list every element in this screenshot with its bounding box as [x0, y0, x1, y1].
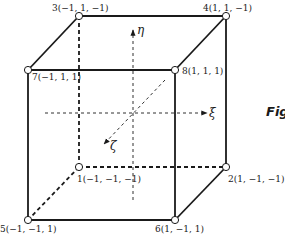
node-label-6: 6(1, −1, 1)	[155, 224, 204, 234]
zeta-axis	[104, 80, 165, 144]
node-5	[24, 216, 31, 223]
edge-1-5	[28, 167, 79, 220]
node-label-2: 2(1, −1, −1)	[228, 174, 284, 184]
node-label-3: 3(−1, 1, −1)	[52, 3, 108, 13]
edge-3-7	[28, 16, 79, 70]
node-7	[24, 66, 31, 73]
hexahedron-diagram: 3(−1, 1, −1) 4(1, 1, −1) 7(−1, 1, 1) 8(1…	[0, 0, 285, 234]
node-8	[171, 66, 178, 73]
zeta-label: ζ	[110, 139, 118, 153]
edge-4-8	[175, 16, 226, 70]
eta-label: η	[137, 23, 145, 37]
node-6	[171, 216, 178, 223]
edge-2-6	[175, 167, 226, 220]
node-label-8: 8(1, 1, 1)	[182, 66, 223, 76]
node-2	[222, 163, 229, 170]
figure-caption-fragment: Fig	[266, 104, 285, 119]
node-4	[222, 12, 229, 19]
node-label-5: 5(−1, −1, 1)	[0, 224, 56, 234]
xi-label: ξ	[209, 106, 217, 120]
node-label-4: 4(1, 1, −1)	[203, 3, 252, 13]
node-3	[75, 12, 82, 19]
node-label-7: 7(−1, 1, 1)	[32, 72, 81, 82]
node-1	[75, 163, 82, 170]
node-label-1: 1(−1, −1, −1)	[77, 174, 141, 184]
